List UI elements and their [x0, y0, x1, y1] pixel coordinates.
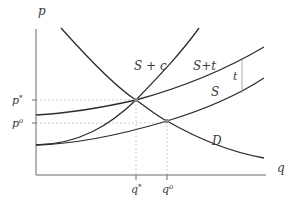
demand-curve: [61, 28, 264, 158]
supply-plus-c-label: S + c: [134, 59, 167, 73]
supply-plus-t-label: S+t: [193, 59, 216, 73]
equilibrium-point-star: [134, 98, 138, 102]
tax-wedge-label: t: [233, 70, 238, 83]
supply-demand-diagram: p q p* po q* qo S + c S+t S D t: [0, 0, 289, 203]
q-o-label: qo: [162, 183, 173, 196]
y-axis-label: p: [38, 4, 46, 18]
equilibrium-point-o: [165, 119, 169, 123]
supply-plus-t-curve: [36, 47, 264, 115]
x-axis-label: q: [277, 161, 285, 175]
p-o-label: po: [12, 117, 23, 130]
demand-label: D: [211, 134, 222, 148]
q-star-label: q*: [131, 183, 142, 196]
supply-label: S: [211, 85, 219, 99]
p-star-label: p*: [12, 94, 23, 107]
